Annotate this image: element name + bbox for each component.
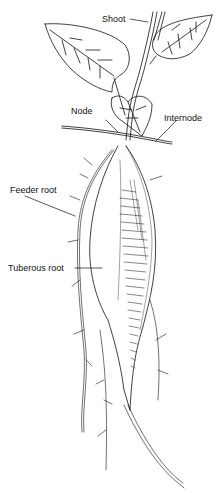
vine-internode bbox=[62, 126, 172, 144]
label-shoot: Shoot bbox=[102, 14, 126, 24]
leaf-left bbox=[45, 24, 129, 92]
leaf-small bbox=[111, 96, 152, 136]
label-node: Node bbox=[71, 106, 93, 116]
tuberous-root bbox=[90, 146, 156, 410]
sweet-potato-diagram: Shoot Node Internode Feeder root Tuberou… bbox=[0, 0, 216, 493]
feeder-roots bbox=[68, 150, 184, 488]
leaf-right bbox=[153, 15, 212, 59]
plant-illustration bbox=[0, 0, 216, 493]
label-tuberous-root: Tuberous root bbox=[8, 263, 64, 273]
root-shading bbox=[120, 180, 148, 368]
label-internode: Internode bbox=[164, 113, 202, 123]
label-feeder-root: Feeder root bbox=[10, 185, 57, 195]
leader-lines bbox=[25, 19, 176, 268]
